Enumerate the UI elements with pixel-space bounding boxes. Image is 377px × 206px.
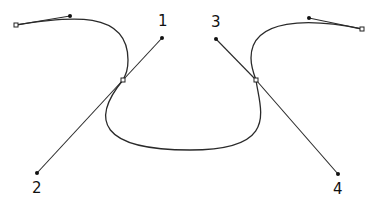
label-3: 3 [211, 13, 221, 31]
label-1: 1 [158, 12, 168, 30]
anchor-points [14, 23, 364, 82]
left-end-handle-line [16, 16, 70, 25]
handle-1-line [123, 38, 162, 80]
handle-3-point[interactable] [214, 37, 218, 41]
right-end-anchor[interactable] [360, 27, 364, 31]
handle-labels: 1 2 3 4 [32, 12, 343, 198]
left-mid-anchor[interactable] [121, 78, 125, 82]
handle-2-line [37, 80, 123, 173]
handle-2-point[interactable] [35, 171, 39, 175]
handle-3-line [216, 39, 256, 80]
handle-points [35, 14, 340, 176]
handle-1-point[interactable] [160, 36, 164, 40]
label-2: 2 [32, 179, 42, 197]
right-mid-anchor[interactable] [254, 78, 258, 82]
handle-4-line [256, 80, 338, 174]
right-end-handle-point[interactable] [307, 16, 311, 20]
bezier-diagram: 1 2 3 4 [0, 0, 377, 206]
label-4: 4 [333, 180, 343, 198]
handle-4-point[interactable] [336, 172, 340, 176]
bezier-curve [16, 19, 362, 150]
left-end-anchor[interactable] [14, 23, 18, 27]
left-end-handle-point[interactable] [68, 14, 72, 18]
